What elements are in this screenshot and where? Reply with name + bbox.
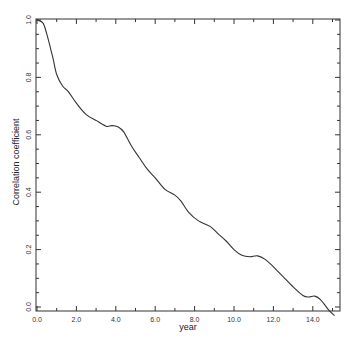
plot-frame	[36, 19, 340, 311]
x-tick-label: 14.0	[306, 316, 320, 323]
x-axis-label: year	[179, 322, 197, 332]
y-tick-label: 1.0	[25, 15, 32, 25]
y-axis-label: Correlation coefficient	[11, 118, 21, 205]
correlation-line	[37, 20, 335, 316]
x-tick-label: 12.0	[267, 316, 281, 323]
y-tick-label: 0.4	[25, 187, 32, 197]
y-tick-label: 0.8	[25, 72, 32, 82]
x-tick-label: 10.0	[227, 316, 241, 323]
y-tick-label: 0.0	[25, 302, 32, 312]
x-tick-label: 2.0	[72, 316, 82, 323]
correlation-chart: 0.02.04.06.08.010.012.014.0 0.00.20.40.6…	[0, 0, 357, 348]
x-tick-label: 6.0	[150, 316, 160, 323]
x-tick-label: 4.0	[111, 316, 121, 323]
y-tick-label: 0.2	[25, 245, 32, 255]
y-axis: 0.00.20.40.60.81.0	[25, 15, 340, 312]
y-tick-label: 0.6	[25, 130, 32, 140]
x-tick-label: 0.0	[32, 316, 42, 323]
x-axis: 0.02.04.06.08.010.012.014.0	[32, 19, 332, 323]
